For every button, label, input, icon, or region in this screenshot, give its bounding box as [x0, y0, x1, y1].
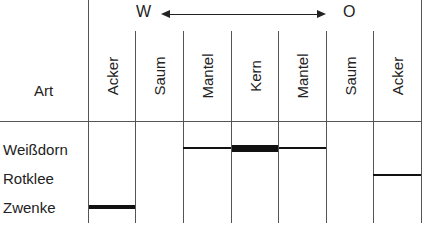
column-label: Saum: [135, 31, 183, 121]
bar-weissdorn-mantel-west: [183, 147, 231, 149]
bar-zwenke-acker-west: [89, 205, 135, 209]
column-label: Acker: [373, 31, 421, 121]
column-label: Mantel: [278, 31, 326, 121]
header-divider: [0, 121, 422, 122]
column-label: Saum: [326, 31, 374, 121]
bar-rotklee-acker-east: [373, 174, 421, 176]
row-label-rotklee: Rotklee: [3, 170, 54, 187]
column-label: Mantel: [183, 31, 231, 121]
column-label: Acker: [88, 31, 136, 121]
vegetation-zone-diagram: Art W O Acker Saum Mantel Kern Mantel Sa…: [0, 0, 437, 237]
column-label: Kern: [231, 31, 279, 121]
row-header-art: Art: [34, 82, 53, 99]
grid-line-right: [421, 0, 422, 223]
bar-weissdorn-kern: [232, 145, 278, 152]
row-label-zwenke: Zwenke: [3, 199, 56, 216]
direction-east-label: O: [343, 3, 355, 21]
arrow-line: [168, 14, 318, 15]
arrow-right-icon: [317, 10, 326, 18]
bar-weissdorn-mantel-east: [279, 147, 326, 149]
direction-west-label: W: [136, 3, 151, 21]
row-label-weissdorn: Weißdorn: [3, 141, 68, 158]
